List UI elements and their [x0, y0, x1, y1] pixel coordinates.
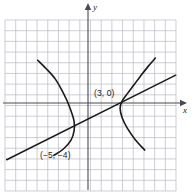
point-label-3-0: (3, 0) [94, 89, 114, 98]
graph-figure: y x (3, 0) (−5, −4) [0, 0, 194, 193]
y-axis-label: y [93, 3, 97, 12]
x-axis-label: x [183, 106, 187, 115]
grid-lines [5, 20, 176, 191]
point-label-neg5-neg4: (−5, −4) [40, 151, 71, 160]
y-axis-arrowhead [85, 3, 91, 10]
series-straight-line [7, 75, 176, 160]
series-right-branch [120, 58, 155, 150]
